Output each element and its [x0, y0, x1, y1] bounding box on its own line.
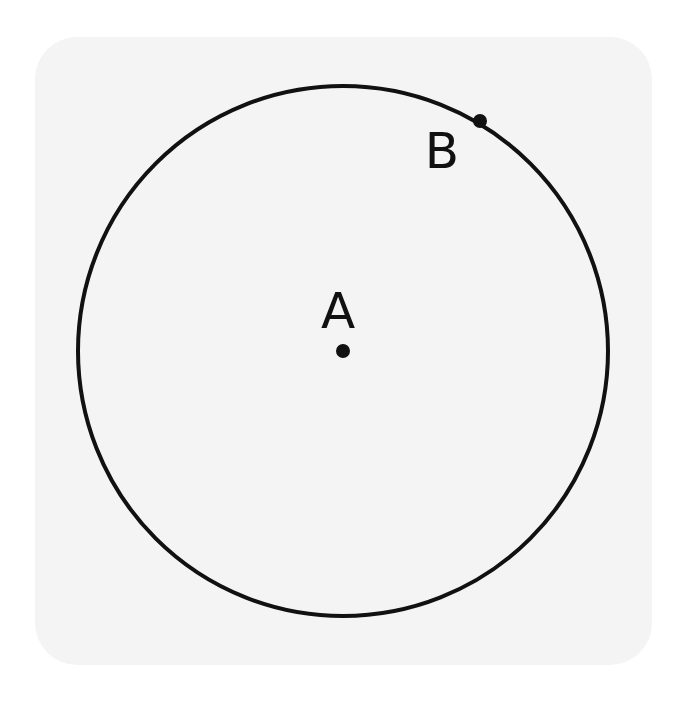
point-b-dot	[473, 114, 487, 128]
point-a-dot	[336, 344, 350, 358]
point-b-label: B	[425, 122, 459, 180]
point-a-label: A	[321, 282, 355, 340]
circle-diagram: A B	[0, 0, 687, 701]
